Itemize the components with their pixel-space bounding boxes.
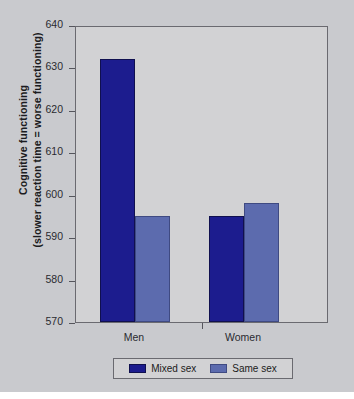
y-tick-label: 570 [45,315,63,327]
y-tick-label: 610 [45,145,63,157]
chart-legend: Mixed sex Same sex [113,358,293,379]
y-tick-label: 630 [45,60,63,72]
y-axis-title-line-1: Cognitive functioning [16,0,30,290]
chart-figure: Cognitive functioning (slower reaction t… [0,0,354,392]
y-tick-mark [69,323,75,324]
legend-item-mixed-sex[interactable]: Mixed sex [129,363,196,374]
x-axis-label-women: Women [203,331,283,343]
plot-area [75,26,328,323]
y-axis-title: Cognitive functioning (slower reaction t… [16,0,44,290]
x-axis-label-men: Men [94,331,174,343]
legend-label-mixed-sex: Mixed sex [151,363,196,374]
legend-swatch-mixed-sex-icon [129,364,146,373]
legend-swatch-same-sex-icon [210,364,227,373]
y-tick-label: 580 [45,273,63,285]
y-tick-label: 620 [45,103,63,115]
bar-women-same-sex [244,203,279,322]
x-axis-center-tick [202,323,203,329]
y-tick-label: 590 [45,230,63,242]
bar-men-mixed-sex [100,59,135,322]
legend-item-same-sex[interactable]: Same sex [210,363,276,374]
bar-men-same-sex [135,216,170,322]
y-axis-title-line-2: (slower reaction time = worse functionin… [30,0,44,290]
legend-label-same-sex: Same sex [232,363,276,374]
bottom-white-strip [0,392,354,399]
y-tick-label: 600 [45,188,63,200]
y-tick-label: 640 [45,18,63,30]
bar-women-mixed-sex [209,216,244,322]
